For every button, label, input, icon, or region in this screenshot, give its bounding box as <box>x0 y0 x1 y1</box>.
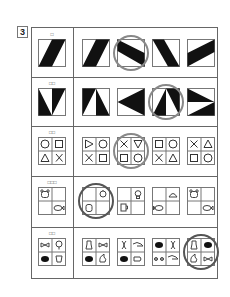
prompt-figure <box>38 238 66 266</box>
option-1[interactable] <box>82 137 110 165</box>
row-1: □ <box>32 28 217 77</box>
option-4[interactable] <box>187 88 215 116</box>
puzzle-frame: □ □□ <box>31 27 218 279</box>
prompt-figure <box>38 39 66 67</box>
prompt-figure <box>38 88 66 116</box>
marker: □□ <box>38 81 66 86</box>
option-1[interactable] <box>82 88 110 116</box>
marker: □□ <box>38 130 66 135</box>
option-2[interactable] <box>117 137 145 165</box>
marker: □ <box>38 32 66 37</box>
row-2: □□ <box>32 77 217 126</box>
option-4[interactable] <box>187 187 215 215</box>
marker: □□□ <box>38 180 66 185</box>
option-3[interactable] <box>152 238 180 266</box>
option-1[interactable] <box>82 238 110 266</box>
row-4: □□□ <box>32 176 217 227</box>
option-3[interactable] <box>152 88 180 116</box>
option-3[interactable] <box>152 39 180 67</box>
row-3: □□ <box>32 126 217 176</box>
option-2[interactable] <box>117 39 145 67</box>
prompt-figure <box>38 137 66 165</box>
option-4[interactable] <box>187 137 215 165</box>
option-1[interactable] <box>82 39 110 67</box>
option-4[interactable] <box>187 39 215 67</box>
option-2[interactable] <box>117 88 145 116</box>
option-1[interactable] <box>82 187 110 215</box>
option-3[interactable] <box>152 137 180 165</box>
marker: □□ <box>38 231 66 236</box>
option-2[interactable] <box>117 238 145 266</box>
option-2[interactable] <box>117 187 145 215</box>
prompt-figure <box>38 187 66 215</box>
row-5: □□ <box>32 227 217 280</box>
question-number: 3 <box>17 26 28 38</box>
option-4[interactable] <box>187 238 215 266</box>
option-3[interactable] <box>152 187 180 215</box>
